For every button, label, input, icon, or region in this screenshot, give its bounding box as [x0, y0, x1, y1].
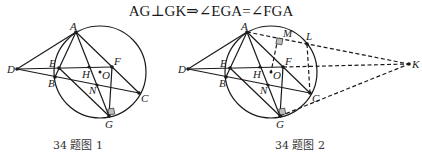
- label-b: B: [48, 77, 55, 89]
- segment-ac: [76, 32, 139, 93]
- geometry-figures: A D E B H O F N C G: [0, 0, 422, 158]
- segment-dc: [17, 69, 139, 93]
- label-g: G: [105, 118, 113, 130]
- label-f: F: [113, 55, 121, 67]
- label-b: B: [219, 77, 226, 89]
- label-m: M: [282, 27, 293, 39]
- segment-df: [188, 67, 283, 69]
- label-k: K: [411, 58, 420, 70]
- segment-df: [17, 67, 112, 69]
- label-c: C: [141, 92, 149, 104]
- right-angle-mark-g: [108, 108, 115, 115]
- right-angle-mark-m: [276, 38, 283, 45]
- caption-figure-1: 34 题图 1: [53, 136, 103, 152]
- label-c: C: [312, 92, 320, 104]
- label-n: N: [259, 84, 268, 96]
- segment-gk: [280, 64, 409, 116]
- label-n: N: [88, 84, 97, 96]
- label-f: F: [284, 55, 292, 67]
- label-a: A: [240, 20, 248, 32]
- label-o: O: [102, 69, 110, 81]
- label-h: H: [252, 68, 262, 80]
- label-d: D: [177, 63, 186, 75]
- label-h: H: [81, 68, 91, 80]
- figure-2: A D E B H O F N C G M L K: [177, 20, 420, 130]
- right-angle-mark-g: [279, 108, 286, 115]
- label-e: E: [48, 57, 56, 69]
- label-a: A: [69, 20, 77, 32]
- label-l: L: [305, 30, 312, 42]
- caption-figure-2: 34 题图 2: [275, 136, 325, 152]
- label-o: O: [273, 69, 281, 81]
- label-d: D: [6, 63, 15, 75]
- segment-fk: [283, 64, 409, 67]
- segment-lc: [307, 44, 310, 93]
- figure-1: A D E B H O F N C G: [6, 20, 149, 130]
- label-g: G: [276, 118, 284, 130]
- segment-dc: [188, 69, 310, 93]
- label-e: E: [219, 57, 227, 69]
- segment-ak: [247, 32, 409, 64]
